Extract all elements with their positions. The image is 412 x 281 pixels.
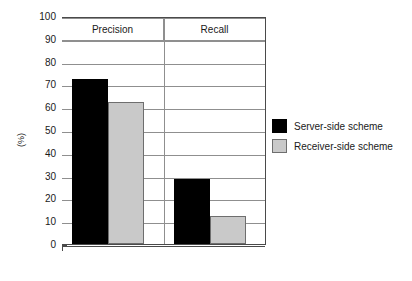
y-tick-label-30: 30 xyxy=(26,172,56,182)
bar-recall-receiver-side xyxy=(210,216,246,245)
bar-precision-receiver-side xyxy=(108,102,144,245)
y-tick-label-100: 100 xyxy=(26,12,56,22)
legend-item-receiver-side: Receiver-side scheme xyxy=(272,137,408,155)
bar-chart-figure: (%) 1009080706050403020100 PrecisionReca… xyxy=(0,0,412,281)
y-tick-label-0: 0 xyxy=(26,240,56,250)
plot-area: PrecisionRecall xyxy=(62,17,266,245)
legend-swatch-icon-server-side xyxy=(272,119,287,133)
legend-label: Server-side scheme xyxy=(294,121,383,132)
y-tick-label-20: 20 xyxy=(26,194,56,204)
chart-legend: Server-side schemeReceiver-side scheme xyxy=(272,117,408,157)
y-tick-label-70: 70 xyxy=(26,80,56,90)
y-tick-label-50: 50 xyxy=(26,126,56,136)
bar-precision-server-side xyxy=(72,79,108,244)
y-axis-tick-group: 1009080706050403020100 xyxy=(22,17,56,245)
y-tick-label-90: 90 xyxy=(26,35,56,45)
gridline-0 xyxy=(62,246,265,247)
legend-swatch-icon-receiver-side xyxy=(272,139,287,153)
legend-label: Receiver-side scheme xyxy=(294,141,393,152)
bar-recall-server-side xyxy=(174,179,210,244)
y-tick-label-40: 40 xyxy=(26,149,56,159)
legend-item-server-side: Server-side scheme xyxy=(272,117,408,135)
y-tick-label-60: 60 xyxy=(26,103,56,113)
bar-group xyxy=(62,18,265,244)
y-tick-label-10: 10 xyxy=(26,217,56,227)
y-tick-label-80: 80 xyxy=(26,58,56,68)
